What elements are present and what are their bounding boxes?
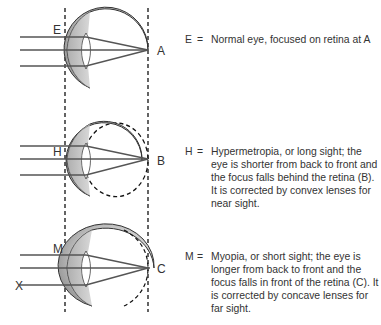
description-myopia: M = Myopia, or short sight; the eye is l… — [185, 250, 381, 315]
desc-key: E — [185, 33, 192, 46]
desc-equals: = — [197, 33, 203, 46]
label-X: X — [15, 279, 23, 293]
description-normal-eye: E = Normal eye, focused on retina at A — [185, 33, 381, 46]
desc-key: H — [185, 145, 193, 158]
label-E: E — [53, 23, 61, 37]
myopia-eye: M X C — [15, 224, 166, 306]
normal-eye: E A — [20, 7, 165, 88]
label-C: C — [157, 262, 166, 276]
label-H: H — [53, 145, 62, 159]
desc-text: Myopia, or short sight; the eye is longe… — [211, 250, 381, 315]
desc-key: M — [185, 250, 194, 263]
label-A: A — [157, 44, 165, 58]
desc-equals: = — [197, 145, 203, 158]
label-M: M — [53, 242, 63, 256]
description-hypermetropia: H = Hypermetropia, or long sight; the ey… — [185, 145, 381, 210]
hypermetropia-eye: H B — [20, 121, 165, 196]
desc-equals: = — [197, 250, 203, 263]
desc-text: Hypermetropia, or long sight; the eye is… — [211, 145, 381, 210]
label-B: B — [157, 154, 165, 168]
desc-text: Normal eye, focused on retina at A — [211, 33, 381, 46]
